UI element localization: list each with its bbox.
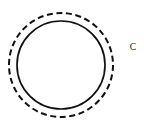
figure-canvas: C: [0, 0, 144, 136]
concentric-circles-diagram: C: [0, 0, 144, 136]
label-c: C: [130, 42, 136, 52]
